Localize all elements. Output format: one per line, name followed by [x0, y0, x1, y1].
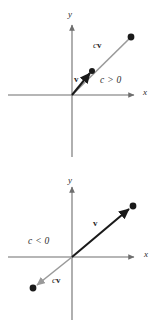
vector-cv-label: cv [52, 276, 61, 285]
condition-label: c < 0 [28, 237, 50, 247]
vector-v-label: v [74, 75, 79, 84]
vector-v [72, 209, 129, 257]
x-axis-label: x [144, 250, 148, 259]
vector-cv-label: cv [93, 41, 102, 50]
cv-endpoint-dot [30, 285, 37, 292]
v-endpoint-dot [89, 68, 95, 74]
condition-label: c > 0 [100, 76, 122, 86]
vector-v-label: v [93, 219, 98, 228]
positive-scalar-panel: y x v cv c > 0 [0, 0, 156, 164]
negative-scalar-panel: y x v cv c < 0 [0, 164, 156, 328]
cv-endpoint-dot [128, 34, 135, 41]
x-axis-label: x [143, 88, 147, 97]
v-endpoint-dot [130, 203, 137, 210]
y-axis-label: y [68, 10, 72, 19]
vector-scalar-multiplication-figure: y x v cv c > 0 [0, 0, 156, 328]
y-axis-label: y [68, 176, 72, 185]
